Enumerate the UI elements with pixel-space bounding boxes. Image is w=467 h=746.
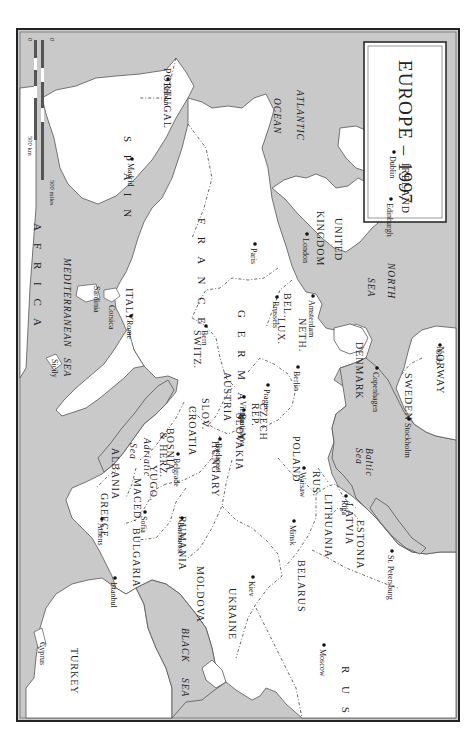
city-label: Rome xyxy=(125,320,134,340)
city-label: Berlin xyxy=(292,371,301,391)
sea-label: SEA xyxy=(180,678,190,697)
country-label: KINGDOM xyxy=(315,211,326,266)
city-label: Minsk xyxy=(288,525,297,545)
country-label: ESTONIA xyxy=(355,520,366,570)
city-label: Paris xyxy=(249,248,258,264)
city-dot-icon xyxy=(253,242,257,246)
city-dot-icon xyxy=(375,366,379,370)
city-label: Bucharest xyxy=(176,522,185,555)
country-label: A F R I C A xyxy=(32,223,44,331)
country-label: NETH. xyxy=(297,318,308,352)
city-dot-icon xyxy=(275,295,279,299)
country-label: MOLDOVA xyxy=(195,566,206,623)
country-label: DENMARK xyxy=(354,342,365,400)
city-dot-icon xyxy=(242,395,246,399)
scale-zero-miles: 0 xyxy=(49,38,56,41)
country-label: ALBANIA xyxy=(110,448,121,500)
city-dot-icon xyxy=(311,294,315,298)
country-label: BULGARIA xyxy=(131,528,142,588)
city-dot-icon xyxy=(113,576,117,580)
city-label: Dublin xyxy=(388,156,397,178)
city-dot-icon xyxy=(296,365,300,369)
city-label: Warsaw xyxy=(298,472,307,498)
city-label: Bratislava xyxy=(238,414,247,447)
sea-label: OCEAN xyxy=(272,98,282,134)
city-dot-icon xyxy=(166,77,170,81)
city-label: Madrid xyxy=(126,163,135,187)
sea-label: BLACK xyxy=(180,628,190,663)
city-dot-icon xyxy=(302,466,306,470)
city-dot-icon xyxy=(242,408,246,412)
country-label: AUSTRIA xyxy=(222,372,233,422)
city-label: Riga xyxy=(340,500,349,516)
city-dot-icon xyxy=(390,549,394,553)
sea-label: MEDITERRANEAN xyxy=(62,257,72,348)
city-dot-icon xyxy=(407,417,411,421)
city-dot-icon xyxy=(438,343,442,347)
city-label: Copenhagen xyxy=(371,372,380,412)
city-label: Belgrade xyxy=(172,458,181,487)
country-label: RUS. xyxy=(311,471,322,497)
city-dot-icon xyxy=(251,575,255,579)
island-label: Sardinia xyxy=(92,286,101,313)
city-label: Athens xyxy=(96,523,105,546)
country-label: CROATIA xyxy=(187,406,198,456)
city-label: Oslo xyxy=(434,349,443,364)
city-label: St. Petersburg xyxy=(386,555,395,600)
city-label: Lisbon xyxy=(162,83,171,105)
city-label: London xyxy=(301,238,310,263)
city-label: Bern xyxy=(200,330,209,346)
city-label: Amsterdam xyxy=(307,300,316,338)
city-dot-icon xyxy=(266,383,270,387)
city-label: Stockholm xyxy=(403,423,412,458)
city-label: Prague xyxy=(262,389,271,412)
europe-map: EUROPE – 1997 0 0 500 km 500 miles ATLAN… xyxy=(16,28,460,722)
country-label: BEL. xyxy=(282,293,293,318)
scale-km-label: 500 km xyxy=(27,136,34,156)
city-dot-icon xyxy=(129,314,133,318)
sea-label: SEA xyxy=(62,358,72,377)
country-label: UKRAINE xyxy=(227,588,238,640)
city-dot-icon xyxy=(305,232,309,236)
country-label: F R A N C E xyxy=(196,218,208,329)
scale-miles-label: 500 miles xyxy=(49,180,56,206)
city-dot-icon xyxy=(344,494,348,498)
island-label: Sicily xyxy=(50,359,59,378)
sea-label: SEA xyxy=(366,278,376,297)
country-label: BELARUS xyxy=(296,560,307,613)
island-label: Corsica xyxy=(107,305,116,330)
sea-label: Sea xyxy=(354,448,364,465)
city-dot-icon xyxy=(100,517,104,521)
country-label: LITHUANIA xyxy=(323,494,334,558)
city-label: Kiev xyxy=(247,581,256,597)
country-label: UNITED xyxy=(333,218,344,261)
sea-label: NORTH xyxy=(386,262,396,299)
city-dot-icon xyxy=(204,324,208,328)
city-dot-icon xyxy=(292,519,296,523)
country-label: SWEDEN xyxy=(403,373,414,421)
city-label: Sofia xyxy=(139,516,148,533)
country-label: YUGO. xyxy=(148,465,159,501)
country-label: SLOV. xyxy=(200,398,211,430)
scale-zero-km: 0 xyxy=(27,38,34,41)
city-label: Brussels xyxy=(271,301,280,328)
city-dot-icon xyxy=(392,150,396,154)
sea-label: Sea xyxy=(128,443,138,460)
city-dot-icon xyxy=(176,452,180,456)
country-label: TURKEY xyxy=(69,648,80,695)
country-label: REP. xyxy=(250,403,261,427)
city-dot-icon xyxy=(389,197,393,201)
city-label: Budapest xyxy=(214,443,223,474)
city-dot-icon xyxy=(322,643,326,647)
city-label: Moscow xyxy=(318,649,327,677)
country-label: IRELAND xyxy=(400,163,411,214)
city-dot-icon xyxy=(218,437,222,441)
country-label: R U S S I A xyxy=(340,666,352,722)
sea-label: Baltic xyxy=(364,448,374,477)
city-dot-icon xyxy=(130,157,134,161)
city-dot-icon xyxy=(143,510,147,514)
city-label: Istanbul xyxy=(109,582,118,609)
city-label: Edinburgh xyxy=(385,203,394,237)
city-dot-icon xyxy=(180,516,184,520)
island-label: Cyprus xyxy=(38,642,47,665)
